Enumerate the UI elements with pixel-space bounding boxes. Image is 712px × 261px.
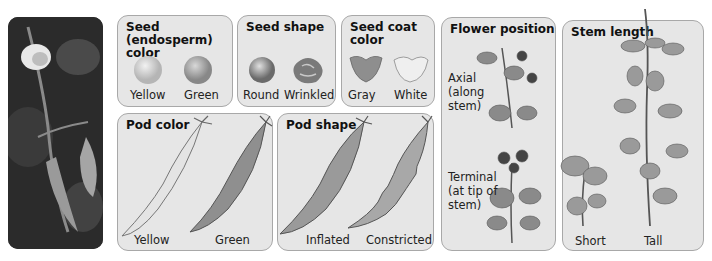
terminal-line-3: stem): [448, 198, 481, 212]
title-line-2: color: [350, 33, 384, 47]
terminal-line-2: (at tip of: [448, 184, 497, 198]
pod-shape-illustrations: [278, 114, 435, 252]
panel-pod-color: Pod color Yellow Green: [117, 113, 273, 251]
terminal-line-1: Terminal: [448, 170, 497, 184]
seed-coat-illustrations: [348, 52, 432, 86]
panel-pod-shape: Pod shape Inflated Constricted: [277, 113, 434, 251]
panel-title: Seed shape: [246, 21, 324, 34]
pod-color-illustrations: [118, 114, 274, 252]
trait-label-round: Round: [243, 88, 279, 102]
panel-seed-coat-color: Seed coat color Gray White: [341, 15, 435, 107]
flower-illustrations: [442, 18, 557, 252]
label-axial: Axial (along stem): [448, 71, 484, 113]
trait-label-gray: Gray: [348, 88, 376, 102]
axial-line-1: Axial: [448, 71, 476, 85]
trait-label-yellow: Yellow: [134, 233, 169, 247]
stem-illustrations: [555, 1, 712, 241]
panel-title: Seed coat color: [350, 21, 417, 47]
seed-illustrations: [132, 54, 222, 88]
title-line-1: Seed coat: [350, 20, 417, 34]
trait-label-short: Short: [575, 234, 606, 248]
seed-shape-illustrations: [248, 54, 328, 88]
pea-plant-photo: [8, 17, 103, 249]
trait-label-green: Green: [215, 233, 250, 247]
title-line-1: Seed (endosperm): [126, 20, 213, 47]
panel-flower-position: Flower position Axial (along stem) Termi…: [441, 17, 556, 251]
panel-seed-color: Seed (endosperm) color Yellow Green: [117, 15, 233, 107]
trait-label-tall: Tall: [644, 234, 663, 248]
panel-stem-length: Stem length Short Tall: [562, 20, 704, 251]
label-terminal: Terminal (at tip of stem): [448, 170, 497, 212]
trait-label-yellow: Yellow: [130, 88, 165, 102]
axial-line-3: stem): [448, 99, 481, 113]
trait-label-white: White: [394, 88, 427, 102]
axial-line-2: (along: [448, 85, 484, 99]
panel-seed-shape: Seed shape Round Wrinkled: [237, 15, 336, 107]
trait-label-wrinkled: Wrinkled: [284, 88, 334, 102]
trait-label-inflated: Inflated: [306, 233, 350, 247]
trait-label-green: Green: [184, 88, 219, 102]
trait-label-constricted: Constricted: [366, 233, 432, 247]
